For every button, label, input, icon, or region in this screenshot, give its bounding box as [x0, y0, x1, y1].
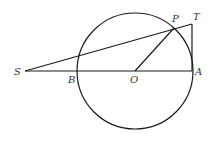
label-a: A [194, 66, 202, 77]
label-b: B [67, 74, 75, 85]
label-o: O [130, 74, 138, 85]
geometry-figure: S B O A P T [0, 0, 212, 141]
label-t: T [193, 11, 201, 22]
segment-st [25, 24, 192, 71]
label-p: P [171, 13, 179, 24]
label-s: S [14, 66, 21, 77]
